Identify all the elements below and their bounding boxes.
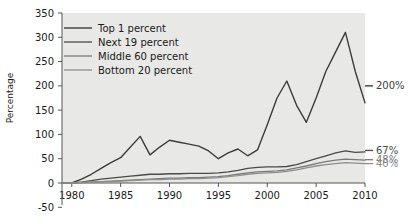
y-tick-label: 150 [35, 105, 54, 116]
y-tick-label: 0 [48, 178, 54, 189]
x-tick-label: 1985 [108, 190, 133, 201]
y-tick-label: 250 [35, 56, 54, 67]
line-chart: 350300250200150100500-50 198019851990199… [0, 0, 408, 224]
y-tick-label: 50 [41, 153, 54, 164]
y-tick-label: 300 [35, 32, 54, 43]
y-axis-label: Percentage [5, 72, 15, 123]
end-label-3: 40% [376, 158, 398, 169]
x-tick-label: 1995 [206, 190, 231, 201]
legend-label-1: Next 19 percent [98, 37, 179, 48]
y-tick-label: 100 [35, 129, 54, 140]
y-tick-label: 350 [35, 8, 54, 19]
legend-label-3: Bottom 20 percent [98, 65, 192, 76]
x-tick-label: 2005 [303, 190, 328, 201]
x-tick-label: 2010 [352, 190, 377, 201]
x-axis-ticks: 1980198519901995200020052010 [59, 183, 378, 201]
y-tick-label: 200 [35, 80, 54, 91]
legend-label-0: Top 1 percent [97, 23, 166, 34]
x-tick-label: 1990 [157, 190, 182, 201]
end-label-0: 200% [376, 80, 405, 91]
chart-canvas: 350300250200150100500-50 198019851990199… [0, 0, 408, 224]
x-tick-label: 1980 [59, 190, 84, 201]
legend-label-2: Middle 60 percent [98, 51, 188, 62]
y-tick-label: -50 [38, 202, 54, 213]
y-axis-ticks: 350300250200150100500-50 [35, 8, 62, 213]
series-end-labels: 200%67%48%40% [365, 80, 405, 169]
x-tick-label: 2000 [255, 190, 280, 201]
